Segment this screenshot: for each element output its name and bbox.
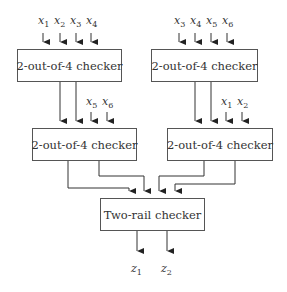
top-left-inputs: x1 x2 x3 x4 xyxy=(38,14,97,42)
mid-left-inputs: x5 x6 xyxy=(86,95,113,121)
mid-right-inputs: x1 x2 xyxy=(221,95,248,121)
output-label: z2 xyxy=(160,262,172,277)
top-right-inputs: x3 x4 x5 x6 xyxy=(174,14,233,42)
input-label: x4 xyxy=(86,14,97,29)
top-right-checker-box: 2-out-of-4 checker xyxy=(151,50,258,82)
box-label: 2-out-of-4 checker xyxy=(151,59,258,73)
input-label: x3 xyxy=(70,14,81,29)
input-label: x4 xyxy=(190,14,201,29)
top-to-mid-wires xyxy=(60,82,211,121)
box-label: 2-out-of-4 checker xyxy=(31,138,138,152)
mid-right-checker-box: 2-out-of-4 checker xyxy=(167,129,274,161)
input-label: x3 xyxy=(174,14,185,29)
input-label: x2 xyxy=(237,95,248,110)
outputs: z1 z2 xyxy=(130,231,172,277)
mid-left-checker-box: 2-out-of-4 checker xyxy=(31,129,138,161)
input-label: x5 xyxy=(86,95,97,110)
input-label: x1 xyxy=(221,95,232,110)
output-label: z1 xyxy=(130,262,142,277)
box-label: 2-out-of-4 checker xyxy=(167,138,274,152)
box-label: Two-rail checker xyxy=(104,208,202,222)
checker-diagram: x1 x2 x3 x4 x3 x4 x5 x6 2-out-of-4 check… xyxy=(0,0,287,292)
mid-to-tworail-wires xyxy=(68,161,235,191)
arrow-icon xyxy=(99,161,144,191)
top-left-checker-box: 2-out-of-4 checker xyxy=(16,50,123,82)
input-label: x2 xyxy=(54,14,65,29)
input-label: x1 xyxy=(38,14,49,29)
two-rail-checker-box: Two-rail checker xyxy=(101,199,205,231)
input-label: x5 xyxy=(206,14,217,29)
arrow-icon xyxy=(159,161,204,191)
input-label: x6 xyxy=(102,95,113,110)
input-label: x6 xyxy=(222,14,233,29)
box-label: 2-out-of-4 checker xyxy=(16,59,123,73)
